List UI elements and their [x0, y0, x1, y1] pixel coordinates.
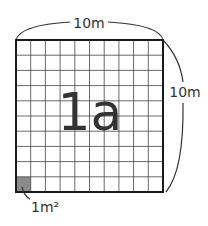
right-side-label: 10m — [169, 84, 200, 100]
right-dimension-arc — [163, 40, 183, 192]
area-diagram: 10m 10m 1a 1m² — [0, 0, 208, 226]
unit-cell-label: 1m² — [31, 199, 59, 215]
top-side-label: 10m — [73, 15, 104, 31]
center-area-label: 1a — [58, 82, 123, 142]
